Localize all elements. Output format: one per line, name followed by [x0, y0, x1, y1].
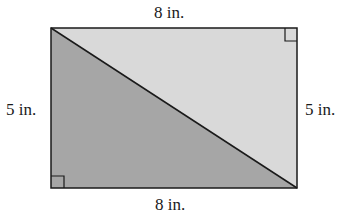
rectangle-diagram	[0, 0, 341, 220]
diagram-canvas: 8 in. 8 in. 5 in. 5 in.	[0, 0, 341, 220]
label-right: 5 in.	[305, 101, 335, 118]
label-top: 8 in.	[154, 4, 184, 21]
label-left: 5 in.	[6, 101, 36, 118]
label-bottom: 8 in.	[155, 196, 185, 213]
